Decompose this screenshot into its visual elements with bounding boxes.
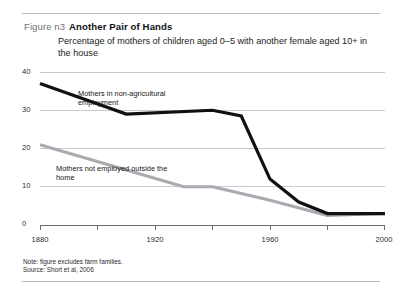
figure-subtitle: Percentage of mothers of children aged 0… — [58, 35, 376, 60]
figure-heading: Figure n3Another Pair of Hands — [24, 21, 374, 33]
page-title: Another Pair of Hands — [69, 21, 172, 32]
annotation-not-employed: Mothers not employed outside the home — [56, 164, 176, 183]
bottom-divider — [22, 281, 380, 282]
x-tick-1920 — [155, 225, 156, 230]
x-tick-1980 — [327, 225, 328, 230]
x-axis: 1880 1920 1960 2000 — [40, 225, 385, 249]
x-tick-1900 — [97, 225, 98, 230]
x-axis-label-1960: 1960 — [262, 235, 279, 244]
x-tick-2000 — [384, 225, 385, 230]
x-tick-1960 — [270, 225, 271, 230]
figure-source: Source: Short et al, 2006 — [23, 266, 123, 274]
figure-container: Figure n3Another Pair of Hands Percentag… — [0, 0, 402, 299]
x-axis-label-1880: 1880 — [32, 235, 49, 244]
figure-footnotes: Note: figure excludes farm families. Sou… — [23, 258, 123, 274]
annotation-non-agricultural: Mothers in non-agricultural employment — [78, 89, 198, 108]
top-divider — [22, 13, 380, 14]
figure-number-label: Figure n3 — [24, 21, 65, 32]
x-tick-1880 — [40, 225, 41, 230]
x-tick-1940 — [212, 225, 213, 230]
figure-note: Note: figure excludes farm families. — [23, 258, 123, 266]
x-axis-label-2000: 2000 — [376, 235, 393, 244]
x-axis-label-1920: 1920 — [147, 235, 164, 244]
